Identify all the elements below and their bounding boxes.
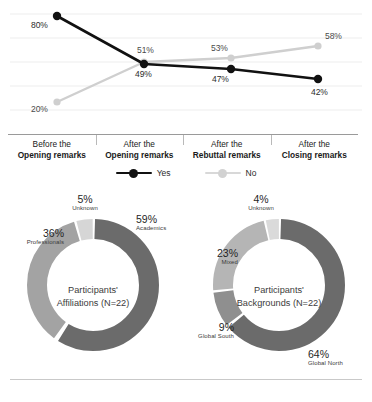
legend-marker-no-icon — [205, 169, 241, 178]
x-category-line2: Closing remarks — [271, 150, 359, 161]
donut-chart-backgrounds: Participants' Backgrounds (N=22) 4% Unkn… — [186, 188, 372, 388]
slice-pct: 23% — [172, 248, 238, 259]
slice-pct: 59% — [136, 214, 166, 225]
slice-name: Unknown — [56, 205, 114, 211]
slice-name: Mixed — [172, 259, 238, 265]
legend-label-no: No — [246, 168, 257, 178]
slice-label-mixed: 23% Mixed — [172, 248, 238, 265]
line-chart-legend: Yes No — [0, 168, 372, 178]
datalabel-yes-opening: 49% — [135, 69, 152, 79]
donut-chart-affiliations: Participants' Affiliations (N=22) 5% Unk… — [0, 188, 186, 388]
datalabel-no-opening: 51% — [137, 45, 154, 55]
slice-pct: 5% — [56, 194, 114, 205]
slice-label-global-north: 64% Global North — [308, 349, 343, 366]
donut-center-text-backgrounds: Participants' Backgrounds (N=22) — [219, 284, 339, 309]
slice-name: Professionals — [0, 239, 64, 245]
x-axis-category-band: Before the Opening remarks After the Ope… — [8, 134, 358, 167]
slice-label-global-south: 9% Global South — [168, 322, 234, 339]
slice-label-unknown-left: 5% Unknown — [56, 194, 114, 211]
slice-pct: 36% — [0, 228, 64, 239]
donut-center-line2: Affiliations (N=22) — [33, 297, 153, 310]
datalabel-yes-before: 80% — [31, 20, 48, 30]
slice-name: Global North — [308, 360, 343, 366]
x-category-after-opening: After the Opening remarks — [96, 135, 184, 167]
legend-marker-yes-icon — [116, 169, 152, 178]
slice-name: Academics — [136, 225, 166, 231]
slice-name: Unknown — [232, 205, 290, 211]
datalabel-yes-rebuttal: 47% — [212, 74, 229, 84]
gridlines — [10, 14, 362, 110]
series-yes-points — [53, 12, 322, 83]
datalabel-yes-closing: 42% — [311, 87, 328, 97]
datalabel-no-rebuttal: 53% — [211, 43, 228, 53]
line-chart-section: 80% 49% 47% 42% 20% 51% 53% 58% Before t… — [0, 0, 372, 188]
donut-center-line1: Participants' — [33, 284, 153, 297]
x-category-line2: Opening remarks — [8, 150, 96, 161]
x-category-line1: Before the — [8, 139, 96, 150]
datalabel-no-before: 20% — [31, 104, 48, 114]
donut-center-text-affiliations: Participants' Affiliations (N=22) — [33, 284, 153, 309]
x-category-line1: After the — [96, 139, 184, 150]
slice-pct: 4% — [232, 194, 290, 205]
slice-label-academics: 59% Academics — [136, 214, 166, 231]
legend-entry-no[interactable]: No — [205, 168, 257, 178]
donut-center-line2: Backgrounds (N=22) — [219, 297, 339, 310]
x-category-line2: Opening remarks — [96, 150, 184, 161]
x-category-line2: Rebuttal remarks — [183, 150, 271, 161]
donut-charts-section: Participants' Affiliations (N=22) 5% Unk… — [0, 188, 372, 388]
legend-entry-yes[interactable]: Yes — [116, 168, 171, 178]
x-category-line1: After the — [183, 139, 271, 150]
slice-label-unknown-right: 4% Unknown — [232, 194, 290, 211]
slice-label-professionals: 36% Professionals — [0, 228, 64, 245]
x-category-after-closing: After the Closing remarks — [271, 135, 359, 167]
donut-center-line1: Participants' — [219, 284, 339, 297]
legend-label-yes: Yes — [157, 168, 171, 178]
line-chart-plot-area: 80% 49% 47% 42% 20% 51% 53% 58% — [0, 0, 372, 134]
bottom-divider — [10, 379, 362, 380]
datalabel-no-closing: 58% — [325, 31, 342, 41]
x-category-after-rebuttal: After the Rebuttal remarks — [183, 135, 271, 167]
slice-pct: 64% — [308, 349, 343, 360]
slice-pct: 9% — [168, 322, 234, 333]
slice-name: Global South — [168, 333, 234, 339]
series-yes-line — [57, 16, 318, 79]
x-category-line1: After the — [271, 139, 359, 150]
x-category-before-opening: Before the Opening remarks — [8, 135, 96, 167]
